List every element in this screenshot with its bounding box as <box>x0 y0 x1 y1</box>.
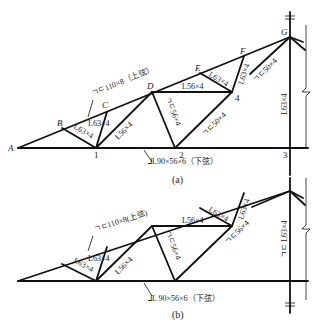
node-3: 3 <box>283 150 288 160</box>
label-F4-b: L63×4 <box>236 197 251 220</box>
label-2-4-a: ㄱㄷ50×4 <box>200 110 228 138</box>
label-D2-a: ㄱㄷ56×4 <box>163 95 183 127</box>
label-top-chord-a: ㄱㄷ110×8（上弦） <box>90 64 155 98</box>
web-G4-b <box>252 191 290 207</box>
label-D4-a: L56×4 <box>182 82 203 91</box>
label-G3-a: L63×4 <box>280 94 289 115</box>
node-E: E <box>194 63 201 73</box>
node-B: B <box>57 118 63 128</box>
truss-diagram: A B C D E F G 1 2 3 4 ㄱㄷ110×8（上弦） ⅃L90×5… <box>0 0 320 333</box>
label-C1-a: L63×4 <box>88 119 109 128</box>
truss-b: ㄱㄷ110×8(上弦) ⅃L 90×56×6（下弦） L63×4 L63×4 L… <box>18 178 310 321</box>
break-mark-b <box>302 225 310 233</box>
node-A: A <box>7 143 14 153</box>
truss-a: A B C D E F G 1 2 3 4 ㄱㄷ110×8（上弦） ⅃L90×5… <box>7 12 310 186</box>
node-C: C <box>102 100 109 110</box>
label-top-chord-b: ㄱㄷ110×8(上弦) <box>93 207 149 234</box>
leader-top-b <box>88 236 93 251</box>
label-C1-b: L63×4 <box>88 254 109 263</box>
label-E4-b: L63×4 <box>207 205 230 223</box>
node-D: D <box>146 81 154 91</box>
break-mark-a <box>302 88 310 96</box>
node-F: F <box>239 46 246 56</box>
label-D2-b: ㄱㄷ56×4 <box>163 229 183 261</box>
label-D1-a: L56×4 <box>113 120 135 142</box>
label-D1-b: L56×4 <box>113 255 135 277</box>
leader-top-a <box>88 100 93 117</box>
caption-b: (b) <box>172 309 184 321</box>
label-bottom-chord-b: ⅃L 90×56×6（下弦） <box>148 293 220 303</box>
node-4: 4 <box>235 93 240 103</box>
node-G: G <box>281 27 288 37</box>
label-G3-b: ㄱㄷ L63×4 <box>280 221 289 258</box>
label-bottom-chord-a: ⅃L90×56×6（下弦） <box>148 156 218 166</box>
label-E4-a: L63×4 <box>207 70 230 88</box>
web-2-4-b <box>175 226 232 281</box>
label-D4-b: L56×4 <box>182 216 203 225</box>
node-1: 1 <box>94 150 99 160</box>
caption-a: (a) <box>172 174 183 186</box>
